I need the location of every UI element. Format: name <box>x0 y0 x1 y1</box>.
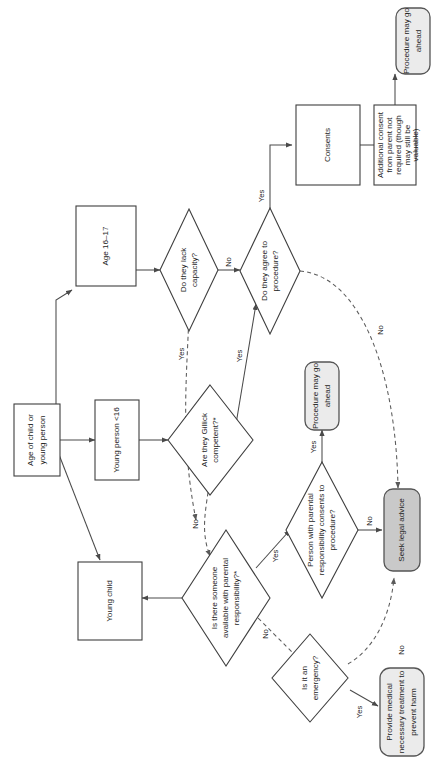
node-start: Age of child or young person <box>14 404 60 476</box>
edge-label-gillick-no: No <box>191 519 200 529</box>
edge-label-capacity-no: No <box>224 257 233 267</box>
node-someone-pr: Is there someone available with parental… <box>182 530 270 666</box>
node-proceed-mid-line-0: Procedure may go <box>311 362 320 429</box>
node-lack-capacity-line-0: Do they lack <box>179 247 188 292</box>
edge-emergency-yes <box>350 690 378 706</box>
node-someone-pr-line-2: responsibility?* <box>232 570 241 625</box>
node-additional-line-1: from parent not <box>385 117 394 173</box>
node-gillick-line-1: competent?* <box>211 416 220 462</box>
node-proceed-mid-line-1: ahead <box>323 385 332 408</box>
node-emergency-line-1: emergency? <box>311 655 320 700</box>
node-proceed-top: Procedure may go ahead <box>396 7 430 74</box>
node-proceed-mid: Procedure may go ahead <box>305 362 339 430</box>
node-agree: Do they agree to procedure? <box>240 208 300 334</box>
node-lack-capacity: Do they lack capacity? <box>160 209 218 331</box>
node-additional-line-4: valuable) <box>411 128 420 161</box>
edge-label-emergency-yes: Yes <box>355 706 364 719</box>
node-provide-line-1: necessary treatment to <box>397 670 406 753</box>
edge-gillick-yes <box>236 304 256 424</box>
node-start-line-1: young person <box>38 415 47 464</box>
node-lack-capacity-line-1: capacity? <box>190 252 199 287</box>
edge-label-someonepr-yes: Yes <box>271 550 280 563</box>
node-young-person-label: Young person <16 <box>112 407 121 473</box>
node-proceed-top-line-0: Procedure may go <box>402 7 411 74</box>
node-additional-line-0: Additional consent <box>376 111 385 178</box>
node-age16-label: Age 16–17 <box>101 226 110 266</box>
node-provide-medical: Provide medical necessary treatment to p… <box>380 668 424 756</box>
node-pr-consents-line-0: Person with parental <box>306 493 315 567</box>
node-consents-label: Consents <box>323 128 332 162</box>
node-pr-consents-line-2: procedure? <box>328 509 337 550</box>
node-consents: Consents <box>296 105 360 185</box>
edge-label-someonepr-no: No <box>261 629 270 639</box>
edge-label-emergency-no: No <box>397 645 406 655</box>
node-seek-legal-advice: Seek legal advice <box>384 489 420 571</box>
edge-label-agree-yes: Yes <box>257 190 266 203</box>
edge-label-gillick-yes: Yes <box>235 350 244 363</box>
node-gillick-line-0: Are they Gillick <box>200 412 209 467</box>
node-young-child-label: Young child <box>105 580 114 622</box>
node-additional-line-2: required (though <box>394 115 403 174</box>
node-someone-pr-line-1: available with parental <box>221 558 230 638</box>
node-start-line-0: Age of child or <box>26 414 35 466</box>
node-agree-line-1: procedure? <box>271 250 280 291</box>
edge-label-prconsents-yes: Yes <box>309 441 318 454</box>
node-seek-legal-label: Seek legal advice <box>397 498 406 562</box>
edge-start-to-age16 <box>56 290 72 404</box>
flowchart-canvas: Age of child or young person Age 16–17 Y… <box>0 0 448 765</box>
node-someone-pr-line-0: Is there someone <box>210 566 219 629</box>
node-pr-consents: Person with parental responsibility cons… <box>286 462 358 598</box>
node-pr-consents-line-1: responsibility consents to <box>317 484 326 575</box>
node-agree-line-0: Do they agree to <box>260 241 269 301</box>
edge-label-agree-no: No <box>376 325 385 335</box>
node-young-person: Young person <16 <box>95 400 139 480</box>
node-additional-consent: Additional consent from parent not requi… <box>374 105 420 185</box>
node-age16: Age 16–17 <box>76 206 136 286</box>
node-proceed-top-line-1: ahead <box>414 30 423 53</box>
node-provide-line-2: prevent harm <box>409 688 418 736</box>
edge-label-capacity-yes: Yes <box>177 348 186 361</box>
node-provide-line-0: Provide medical <box>385 683 394 741</box>
node-emergency-line-0: Is it an <box>300 666 309 690</box>
flowchart-svg: Age of child or young person Age 16–17 Y… <box>0 0 448 765</box>
edge-emergency-no <box>348 578 394 664</box>
node-emergency: Is it an emergency? <box>272 634 348 722</box>
node-young-child: Young child <box>78 562 142 640</box>
edge-start-to-youngchild <box>58 452 100 560</box>
edge-label-prconsents-no: No <box>365 516 374 526</box>
